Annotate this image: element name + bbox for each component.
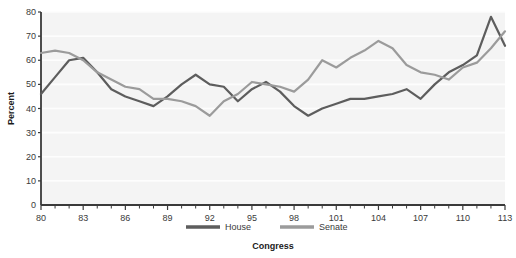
y-axis-tick-label: 60 — [26, 55, 36, 65]
y-axis-tick-label: 30 — [26, 128, 36, 138]
y-axis-tick-label: 80 — [26, 7, 36, 17]
y-axis-tick-label: 50 — [26, 79, 36, 89]
x-axis-tick-label: 110 — [456, 213, 470, 223]
chart-figure: 0102030405060708080838689929598101104107… — [0, 0, 516, 258]
x-axis-tick-label: 104 — [371, 213, 386, 223]
y-axis-tick-label: 70 — [26, 31, 36, 41]
x-axis-tick-label: 107 — [413, 213, 428, 223]
x-axis-tick-label: 80 — [36, 213, 46, 223]
x-axis-tick-label: 113 — [498, 213, 512, 223]
line-chart-svg: 0102030405060708080838689929598101104107… — [0, 0, 516, 258]
y-axis-tick-label: 0 — [31, 200, 36, 210]
x-axis-tick-label: 83 — [78, 213, 88, 223]
y-axis-title: Percent — [6, 92, 16, 125]
y-axis-tick-label: 20 — [26, 152, 36, 162]
x-axis-tick-label: 89 — [163, 213, 173, 223]
y-axis-tick-label: 10 — [26, 176, 36, 186]
legend-label-senate: Senate — [319, 222, 348, 232]
x-axis-title: Congress — [252, 241, 294, 251]
y-axis-tick-label: 40 — [26, 104, 36, 114]
x-axis-tick-label: 92 — [205, 213, 215, 223]
legend-label-house: House — [225, 222, 251, 232]
x-axis-tick-label: 98 — [289, 213, 299, 223]
plot-area-wrapper: 0102030405060708080838689929598101104107… — [0, 0, 516, 258]
x-axis-tick-label: 86 — [120, 213, 130, 223]
